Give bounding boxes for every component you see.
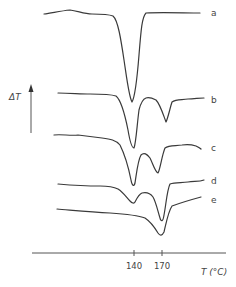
x-axis-label: T (°C) [201,267,227,277]
x-tick-label-170: 170 [154,261,170,271]
dta-chart: a b c d e ΔT 140 170 T (°C) [0,0,236,287]
label-b: b [211,95,217,105]
label-e: e [211,195,217,205]
x-tick-label-140: 140 [126,261,142,271]
curve-c [54,135,201,186]
curve-a [44,10,200,102]
dta-figure: a b c d e ΔT 140 170 T (°C) [0,0,236,287]
curve-e [57,197,201,235]
label-a: a [211,8,217,18]
y-arrow-head-icon [29,84,34,92]
label-d: d [211,176,217,186]
label-c: c [211,143,216,153]
y-axis-label: ΔT [8,92,22,102]
